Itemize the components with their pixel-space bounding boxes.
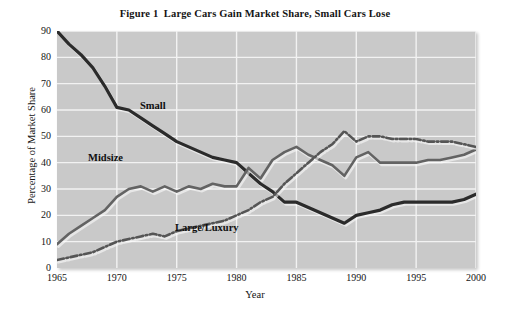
x-axis-tick-1975: 1975 xyxy=(147,272,207,283)
x-axis-tick-1995: 1995 xyxy=(386,272,446,283)
x-axis-tick-1990: 1990 xyxy=(326,272,386,283)
series-label-large: Large/Luxury xyxy=(175,222,239,233)
figure-container: Figure 1 Large Cars Gain Market Share, S… xyxy=(0,0,510,311)
plot-area xyxy=(57,31,476,268)
x-axis-tick-1980: 1980 xyxy=(207,272,267,283)
x-axis-tick-1985: 1985 xyxy=(266,272,326,283)
x-axis-tick-1965: 1965 xyxy=(27,272,87,283)
series-label-midsize: Midsize xyxy=(88,152,123,163)
x-axis-tick-1970: 1970 xyxy=(87,272,147,283)
x-axis-tick-2000: 2000 xyxy=(446,272,506,283)
chart-svg xyxy=(57,31,476,268)
series-label-small: Small xyxy=(140,100,166,111)
